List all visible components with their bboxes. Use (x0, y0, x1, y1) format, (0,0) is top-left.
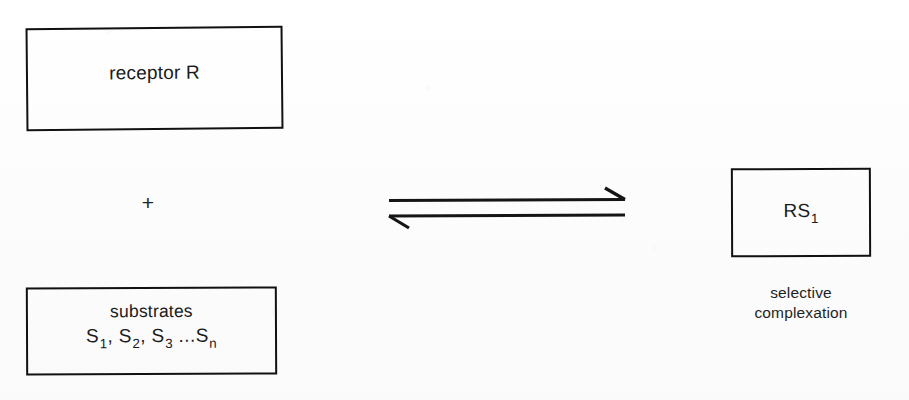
substrate-subscript-3: 3 (165, 335, 173, 350)
substrate-separator-1: , (107, 325, 113, 346)
substrate-separator-2: , (140, 325, 146, 346)
product-box-label: RS1 (733, 200, 869, 223)
receptor-box: receptor R (26, 26, 284, 131)
substrate-subscript-n: n (209, 335, 217, 350)
substrate-symbol-1: S (86, 325, 99, 346)
product-subscript: 1 (810, 211, 818, 226)
product-caption-line-2: complexation (711, 303, 891, 323)
reverse-arrow-head (389, 216, 409, 228)
forward-arrow-head (605, 188, 625, 200)
forward-arrow-shaft (389, 200, 625, 201)
substrate-subscript-2: 2 (132, 336, 140, 351)
diagram-canvas: receptor R + substrates S1, S2, S3 ...Sn… (0, 0, 909, 400)
substrate-symbol-3: S (151, 325, 164, 346)
substrates-formula: S1, S2, S3 ...Sn (28, 324, 275, 347)
product-caption-line-1: selective (711, 283, 891, 303)
product-caption: selective complexation (711, 283, 891, 324)
product-box: RS1 (731, 168, 871, 257)
reverse-arrow-shaft (389, 215, 625, 216)
product-symbol: RS (783, 200, 810, 221)
substrates-box: substrates S1, S2, S3 ...Sn (26, 286, 277, 375)
substrate-ellipsis: ... (179, 325, 196, 346)
substrate-symbol-n: S (196, 325, 209, 346)
equilibrium-arrow-icon (380, 182, 636, 234)
plus-operator: + (128, 192, 168, 213)
substrates-box-title: substrates (28, 300, 275, 322)
receptor-box-label: receptor R (28, 61, 281, 86)
substrate-symbol-2: S (119, 325, 132, 346)
